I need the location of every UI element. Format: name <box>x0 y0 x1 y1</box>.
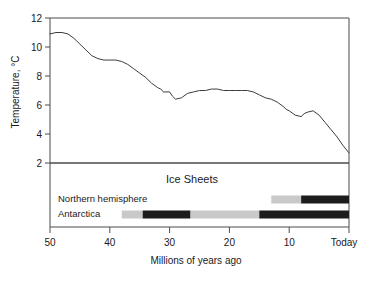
antarctica-bars <box>122 211 349 219</box>
y-axis-title: Temperature, °C <box>10 56 21 129</box>
track-northern-hemisphere: Northern hemisphere <box>58 193 349 204</box>
ice-sheet-segment <box>259 211 349 219</box>
x-axis-tick-labels: 50 40 30 20 10 Today <box>44 237 357 248</box>
track-label-antarctica: Antarctica <box>58 208 101 219</box>
x-axis-title: Millions of years ago <box>150 255 242 266</box>
y-axis-tick-labels: 12 10 8 6 4 2 <box>31 13 43 169</box>
x-tick-label-10: 10 <box>284 237 296 248</box>
x-tick-label-50: 50 <box>44 237 56 248</box>
x-tick-label-30: 30 <box>164 237 176 248</box>
y-tick-label-8: 8 <box>36 71 42 82</box>
x-tick-label-40: 40 <box>104 237 116 248</box>
ice-sheet-segment <box>191 211 260 219</box>
figure-container: 12 10 8 6 4 2 Temperature, °C Ice Sheets… <box>0 0 376 281</box>
x-tick-label-today: Today <box>331 237 358 248</box>
y-tick-label-6: 6 <box>36 100 42 111</box>
track-antarctica: Antarctica <box>58 208 349 219</box>
x-axis-ticks <box>50 227 349 233</box>
x-tick-label-20: 20 <box>224 237 236 248</box>
ice-sheet-segment <box>301 196 349 204</box>
track-label-northern-hemisphere: Northern hemisphere <box>58 193 147 204</box>
northern-hemisphere-bars <box>271 196 349 204</box>
y-tick-label-4: 4 <box>36 129 42 140</box>
y-tick-label-2: 2 <box>36 158 42 169</box>
ice-sheet-segment <box>143 211 191 219</box>
ice-sheet-segment <box>271 196 301 204</box>
temperature-curve <box>50 33 349 153</box>
ice-sheet-segment <box>122 211 143 219</box>
y-axis-ticks <box>45 18 50 163</box>
y-tick-label-10: 10 <box>31 42 43 53</box>
temperature-ice-sheets-chart: 12 10 8 6 4 2 Temperature, °C Ice Sheets… <box>0 0 376 281</box>
ice-sheets-panel-title: Ice Sheets <box>166 173 218 185</box>
y-tick-label-12: 12 <box>31 13 43 24</box>
